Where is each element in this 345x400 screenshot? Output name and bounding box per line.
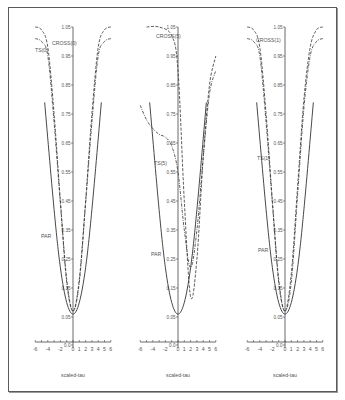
- y-tick-label: 0.55: [274, 170, 283, 175]
- y-tick-label: 0.75: [62, 112, 71, 117]
- x-tick-label: 2: [189, 346, 192, 352]
- chart-panel-1: 1.050.950.850.750.650.550.450.350.250.15…: [33, 25, 112, 378]
- y-tick-label: 0.35: [62, 228, 71, 233]
- y-tick-label: 0.25: [167, 257, 176, 262]
- x-tick-label: -6: [138, 346, 143, 352]
- y-tick-label: 0.0: [169, 343, 176, 348]
- y-tick-label: 0.55: [62, 170, 71, 175]
- y-tick-label: 1.05: [62, 25, 71, 30]
- x-tick-label: 0: [72, 346, 75, 352]
- x-tick-label: 4: [202, 346, 205, 352]
- x-tick-label: 4: [97, 346, 100, 352]
- y-tick-label: 0.0: [276, 343, 283, 348]
- x-tick-label: -2: [270, 346, 275, 352]
- y-tick-label: 0.95: [274, 54, 283, 59]
- series-label-par: PAR: [41, 233, 52, 239]
- x-tick-label: 6: [321, 346, 324, 352]
- x-tick-label: -4: [150, 346, 155, 352]
- y-tick-label: 0.05: [274, 315, 283, 320]
- y-tick-label: 0.25: [274, 257, 283, 262]
- y-tick-label: 0.45: [274, 199, 283, 204]
- y-tick-label: 0.55: [167, 170, 176, 175]
- y-tick-label: 0.85: [274, 83, 283, 88]
- y-tick-label: 0.75: [167, 112, 176, 117]
- y-tick-label: 0.45: [62, 199, 71, 204]
- x-tick-label: 2: [296, 346, 299, 352]
- series-label-cross: CROSS(1): [256, 37, 281, 43]
- y-tick-label: 0.95: [62, 54, 71, 59]
- y-tick-label: 0.95: [167, 54, 176, 59]
- y-tick-label: 1.05: [167, 25, 176, 30]
- x-tick-label: 3: [195, 346, 198, 352]
- x-tick-label: -4: [257, 346, 262, 352]
- y-tick-label: 1.05: [274, 25, 283, 30]
- x-tick-label: 3: [302, 346, 305, 352]
- x-tick-label: 6: [214, 346, 217, 352]
- y-tick-label: 0.05: [167, 315, 176, 320]
- x-tick-label: 1: [183, 346, 186, 352]
- y-tick-label: 0.35: [274, 228, 283, 233]
- x-tick-label: -6: [245, 346, 250, 352]
- y-tick-label: 0.65: [62, 141, 71, 146]
- x-tick-label: -4: [45, 346, 50, 352]
- y-tick-label: 0.25: [62, 257, 71, 262]
- series-label-ts: TS(1): [257, 155, 270, 161]
- x-tick-label: 0: [177, 346, 180, 352]
- x-tick-label: 1: [290, 346, 293, 352]
- series-label-ts: TS(0): [35, 47, 48, 53]
- series-label-par: PAR: [151, 251, 162, 257]
- x-tick-label: 5: [103, 346, 106, 352]
- x-tick-label: 6: [109, 346, 112, 352]
- x-tick-label: 5: [208, 346, 211, 352]
- x-tick-label: -6: [33, 346, 38, 352]
- x-tick-label: 1: [78, 346, 81, 352]
- chart-panel-2: 1.050.950.850.750.650.550.450.350.250.15…: [138, 25, 217, 378]
- x-tick-label: -2: [163, 346, 168, 352]
- y-tick-label: 0.35: [167, 228, 176, 233]
- y-tick-label: 0.85: [167, 83, 176, 88]
- x-tick-label: -2: [58, 346, 63, 352]
- x-axis-label: scaled-tau: [166, 372, 190, 378]
- x-tick-label: 5: [315, 346, 318, 352]
- x-tick-label: 4: [309, 346, 312, 352]
- y-tick-label: 0.65: [274, 141, 283, 146]
- x-tick-label: 0: [284, 346, 287, 352]
- chart-panel-3: 1.050.950.850.750.650.550.450.350.250.15…: [245, 25, 324, 378]
- y-tick-label: 0.75: [274, 112, 283, 117]
- y-tick-label: 0.05: [62, 315, 71, 320]
- series-label-par: PAR: [258, 247, 269, 253]
- y-tick-label: 0.0: [64, 343, 71, 348]
- series-label-cross: CROSS(0): [52, 40, 77, 46]
- chart-figure: 1.050.950.850.750.650.550.450.350.250.15…: [0, 0, 345, 400]
- x-axis-label: scaled-tau: [61, 372, 85, 378]
- y-tick-label: 0.85: [62, 83, 71, 88]
- x-tick-label: 2: [84, 346, 87, 352]
- series-label-cross: CROSS(5): [156, 33, 181, 39]
- series-label-ts: TS(5): [154, 160, 167, 166]
- x-tick-label: 3: [90, 346, 93, 352]
- y-tick-label: 0.45: [167, 199, 176, 204]
- x-axis-label: scaled-tau: [273, 372, 297, 378]
